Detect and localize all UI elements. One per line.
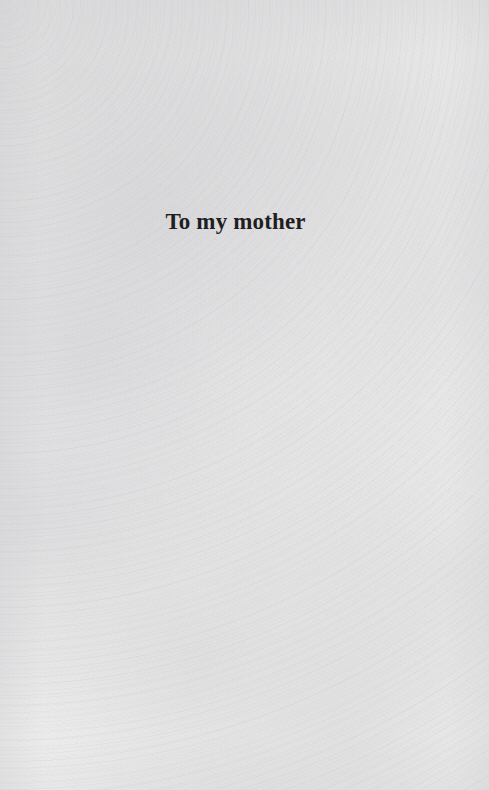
paper-texture-layer <box>0 0 489 790</box>
paper-grain-layer <box>0 0 489 790</box>
paper-vignette-layer <box>0 0 489 790</box>
book-page: To my mother <box>0 0 489 790</box>
dedication-text: To my mother <box>165 209 305 235</box>
dedication-block: To my mother <box>0 209 489 235</box>
